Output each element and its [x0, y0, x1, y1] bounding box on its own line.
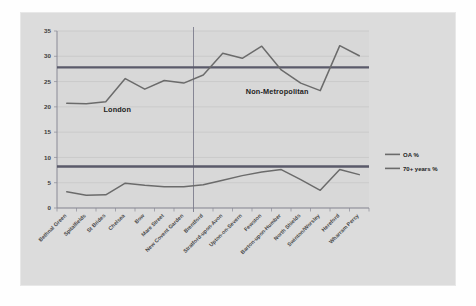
y-axis-tick-label: 0 [48, 204, 52, 211]
london-region-label: London [103, 105, 131, 114]
y-axis-tick-label: 35 [44, 27, 51, 34]
y-axis-tick-label: 5 [48, 179, 52, 186]
x-axis-category-label: Chelsea [107, 212, 127, 232]
y-axis-tick-label: 15 [44, 128, 51, 135]
legend-label: OA % [403, 152, 419, 158]
chart-figure: 05101520253035Bethnal GreenSpitalfieldsS… [0, 0, 476, 306]
y-axis-tick-label: 20 [44, 103, 51, 110]
x-axis-category-label: Bow [133, 212, 146, 225]
x-axis-category-label: Bethnal Green [37, 212, 67, 242]
legend-label: 70+ years % [403, 166, 438, 172]
x-axis-category-label: Fewston [243, 212, 263, 232]
y-axis-tick-label: 10 [44, 154, 51, 161]
x-axis-category-label: New Covent Garden [144, 212, 184, 252]
plot-area [57, 31, 369, 208]
x-axis-category-label: St Brides [85, 212, 106, 233]
y-axis-tick-label: 25 [44, 78, 51, 85]
line-chart: 05101520253035Bethnal GreenSpitalfieldsS… [21, 13, 455, 285]
non-metropolitan-region-label: Non-Metropolitan [246, 87, 309, 96]
y-axis-tick-label: 30 [44, 52, 51, 59]
chart-plot-frame: 05101520253035Bethnal GreenSpitalfieldsS… [20, 12, 456, 286]
